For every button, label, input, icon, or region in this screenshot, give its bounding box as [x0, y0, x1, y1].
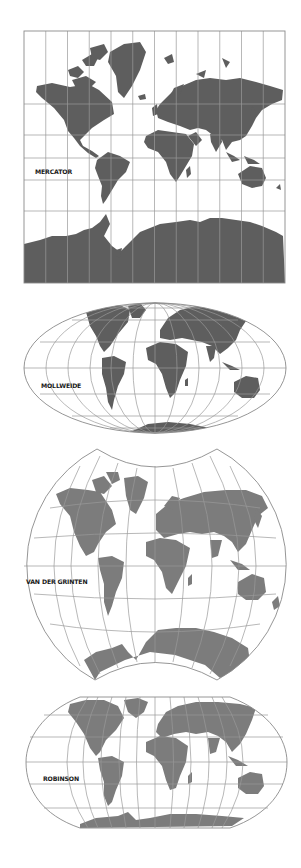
- mollweide-map: MOLLWEIDE: [24, 303, 286, 433]
- van-der-grinten-graticule: [24, 456, 286, 674]
- van-der-grinten-label: VAN DER GRINTEN: [26, 578, 87, 585]
- robinson-map: ROBINSON: [26, 697, 287, 828]
- robinson-label: ROBINSON: [43, 775, 79, 782]
- mercator-map: MERCATOR: [24, 31, 285, 283]
- map-projections-figure: MERCATOR: [0, 0, 301, 868]
- mollweide-label: MOLLWEIDE: [41, 382, 81, 389]
- van-der-grinten-map: VAN DER GRINTEN: [24, 449, 286, 680]
- mollweide-graticule: [24, 303, 286, 433]
- robinson-landmasses: [68, 698, 264, 828]
- mercator-label: MERCATOR: [35, 168, 72, 175]
